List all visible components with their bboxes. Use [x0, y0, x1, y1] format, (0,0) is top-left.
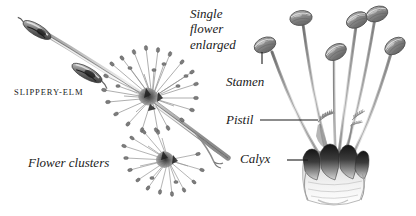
label-stamen: Stamen	[226, 74, 264, 89]
label-slippery-elm: SLIPPERY-ELM	[14, 87, 83, 97]
label-single-flower-enlarged: Single flower enlarged	[190, 6, 236, 52]
label-single-flower-line-1: Single	[190, 6, 236, 21]
label-flower-clusters: Flower clusters	[28, 155, 109, 170]
calyx-cup-icon	[303, 144, 369, 205]
label-calyx: Calyx	[240, 151, 270, 166]
label-pistil: Pistil	[226, 112, 253, 127]
label-single-flower-line-2: flower	[190, 21, 236, 36]
label-single-flower-line-3: enlarged	[190, 37, 236, 52]
